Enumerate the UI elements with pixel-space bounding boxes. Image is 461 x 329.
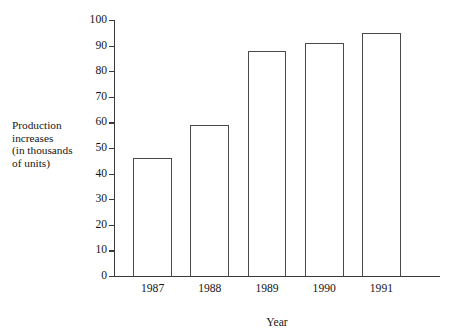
y-axis-line xyxy=(114,20,115,277)
y-tick-mark xyxy=(109,174,114,175)
bar xyxy=(305,43,344,276)
y-axis-label-line-4: of units) xyxy=(12,157,96,170)
x-tick-label: 1991 xyxy=(370,282,393,296)
y-tick-label: 50 xyxy=(95,140,107,155)
bar xyxy=(248,51,287,276)
bar xyxy=(133,158,172,276)
y-tick-label: 80 xyxy=(95,63,107,78)
bar xyxy=(362,33,401,276)
x-axis-line xyxy=(114,276,440,277)
y-tick-label: 30 xyxy=(95,191,107,206)
y-tick-label: 100 xyxy=(90,12,107,27)
y-axis-label: Production increases (in thousands of un… xyxy=(12,119,96,169)
y-tick-mark xyxy=(109,225,114,226)
y-tick-mark xyxy=(109,148,114,149)
y-tick-label: 90 xyxy=(95,38,107,53)
y-tick-mark xyxy=(109,97,114,98)
y-tick-label: 60 xyxy=(95,114,107,129)
y-tick-label: 70 xyxy=(95,89,107,104)
x-axis-title: Year xyxy=(114,316,440,329)
y-axis-label-line-3: (in thousands xyxy=(12,144,96,157)
plot-area: 0102030405060708090100 19871988198919901… xyxy=(114,20,440,277)
y-tick-label: 40 xyxy=(95,166,107,181)
y-tick-mark xyxy=(109,122,114,123)
bar xyxy=(190,125,229,276)
y-tick-label: 10 xyxy=(95,242,107,257)
x-tick-label: 1990 xyxy=(313,282,336,296)
x-tick-label: 1989 xyxy=(255,282,278,296)
x-tick-label: 1987 xyxy=(141,282,164,296)
x-tick-label: 1988 xyxy=(198,282,221,296)
y-axis-label-line-1: Production xyxy=(12,119,96,132)
y-tick-mark xyxy=(109,46,114,47)
y-axis-label-line-2: increases xyxy=(12,132,96,145)
y-tick-mark xyxy=(109,276,114,277)
y-tick-mark xyxy=(109,250,114,251)
y-tick-label: 0 xyxy=(101,268,107,283)
y-tick-mark xyxy=(109,20,114,21)
y-tick-label: 20 xyxy=(95,217,107,232)
y-tick-mark xyxy=(109,71,114,72)
y-tick-mark xyxy=(109,199,114,200)
